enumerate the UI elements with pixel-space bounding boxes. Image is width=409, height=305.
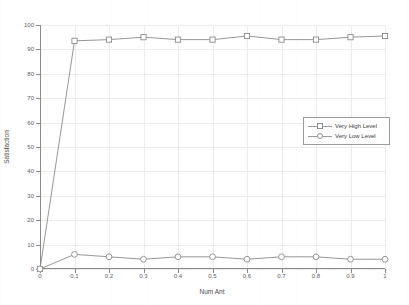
x-axis-title: Num Ant	[200, 288, 225, 295]
legend-item-very-high-level[interactable]: Very High Level	[308, 121, 385, 131]
series-line	[40, 36, 385, 269]
y-tick-label: 100	[24, 22, 34, 28]
data-point-circle-marker	[244, 256, 250, 262]
y-tick-label: 60	[27, 120, 34, 126]
data-point-circle-marker	[382, 256, 388, 262]
y-tick-label: 70	[27, 95, 34, 101]
y-tick-label: 90	[27, 46, 34, 52]
y-tick-label: 10	[27, 242, 34, 248]
data-point-circle-marker	[210, 254, 216, 260]
y-tick-label: 40	[27, 168, 34, 174]
data-point-circle-marker	[175, 254, 181, 260]
y-tick-label: 20	[27, 217, 34, 223]
grid-line-vertical	[385, 25, 386, 269]
y-tick-label: 0	[31, 266, 34, 272]
x-tick-label: 1	[383, 273, 386, 279]
data-point-circle-marker	[313, 254, 319, 260]
data-point-circle-marker	[106, 254, 112, 260]
data-point-square-marker	[175, 37, 180, 42]
data-point-square-marker	[382, 33, 387, 38]
x-tick-label: 0.7	[277, 273, 285, 279]
data-point-square-marker	[106, 37, 111, 42]
x-tick-label: 0.2	[105, 273, 113, 279]
data-point-square-marker	[244, 33, 249, 38]
y-tick-label: 80	[27, 71, 34, 77]
chart-legend[interactable]: Very High Level Very Low Level	[303, 117, 390, 145]
x-tick-label: 0.3	[139, 273, 147, 279]
x-tick-label: 0	[38, 273, 41, 279]
legend-swatch-circle-icon	[308, 131, 332, 141]
y-tick-label: 50	[27, 144, 34, 150]
data-point-square-marker	[72, 38, 77, 43]
legend-swatch-square-icon	[308, 121, 332, 131]
data-point-square-marker	[141, 35, 146, 40]
chart-figure: 0102030405060708090100 00.10.20.30.40.50…	[0, 0, 409, 305]
y-axis-title: Satisfaction	[3, 130, 10, 164]
x-tick-label: 0.5	[208, 273, 216, 279]
data-point-circle-marker	[141, 256, 147, 262]
y-tick-label: 30	[27, 193, 34, 199]
x-tick-label: 0.6	[243, 273, 251, 279]
data-point-circle-marker	[279, 254, 285, 260]
data-point-square-marker	[210, 37, 215, 42]
x-tick-label: 0.8	[312, 273, 320, 279]
legend-label: Very Low Level	[332, 132, 376, 140]
x-tick-label: 0.1	[70, 273, 78, 279]
x-tick-label: 0.4	[174, 273, 182, 279]
legend-label: Very High Level	[332, 122, 377, 130]
x-tick-label: 0.9	[346, 273, 354, 279]
data-point-circle-marker	[37, 266, 43, 272]
data-point-square-marker	[279, 37, 284, 42]
legend-item-very-low-level[interactable]: Very Low Level	[308, 131, 385, 141]
data-point-square-marker	[348, 35, 353, 40]
plot-area: 0102030405060708090100 00.10.20.30.40.50…	[40, 25, 385, 269]
data-point-circle-marker	[72, 251, 78, 257]
data-point-circle-marker	[348, 256, 354, 262]
data-series-layer	[40, 25, 385, 269]
data-point-square-marker	[313, 37, 318, 42]
